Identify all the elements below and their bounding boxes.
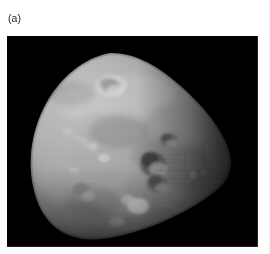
figure-panel: (a) [0,0,270,254]
moon-image [7,36,258,247]
photograph-frame [7,36,258,247]
page-edge-shadow [266,0,270,254]
panel-label: (a) [8,12,21,24]
